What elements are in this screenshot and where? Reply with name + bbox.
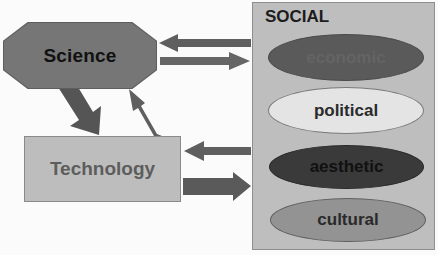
arrow-social-to-technology — [184, 141, 251, 161]
social-node[interactable]: SOCIAL economic political aesthetic cult… — [252, 2, 435, 250]
technology-label: Technology — [50, 158, 155, 180]
political-label: political — [314, 101, 378, 121]
arrow-science-to-social — [160, 52, 250, 70]
political-ellipse[interactable]: political — [268, 87, 424, 134]
social-title: SOCIAL — [265, 7, 329, 27]
economic-label: economic — [306, 48, 385, 68]
science-node[interactable]: Science — [4, 23, 156, 88]
cultural-label: cultural — [317, 210, 378, 230]
aesthetic-label: aesthetic — [310, 157, 384, 177]
arrow-technology-to-science — [129, 89, 162, 136]
arrow-social-to-science — [159, 34, 251, 52]
arrow-science-to-technology — [58, 87, 101, 135]
cultural-ellipse[interactable]: cultural — [270, 198, 426, 242]
science-label: Science — [43, 45, 116, 67]
diagram-canvas: Science Technology SOCIAL economic polit… — [0, 0, 438, 255]
economic-ellipse[interactable]: economic — [268, 34, 424, 81]
arrow-technology-to-social — [183, 172, 251, 201]
aesthetic-ellipse[interactable]: aesthetic — [269, 145, 424, 189]
technology-node[interactable]: Technology — [24, 136, 181, 202]
